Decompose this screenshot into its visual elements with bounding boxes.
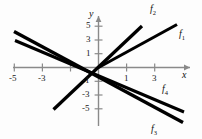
y-tick-label-5: 5 (86, 21, 91, 30)
y-tick-label-neg1: -1 (82, 76, 90, 85)
curve-label-f1: f1 (179, 29, 185, 42)
curve-label-f4: f4 (162, 84, 168, 97)
y-axis-label: y (89, 9, 93, 19)
y-tick-label-neg5: -5 (82, 104, 90, 113)
x-tick-label-neg5: -5 (9, 74, 17, 83)
graph-canvas (0, 0, 202, 139)
curve-label-f2: f2 (150, 4, 156, 17)
y-axis-arrow (96, 16, 102, 22)
curve-label-f3: f3 (151, 124, 157, 137)
y-tick-label-1: 1 (86, 49, 91, 58)
x-tick-label-3: 3 (152, 74, 157, 83)
x-tick-label-neg3: -3 (38, 74, 46, 83)
function-graph-figure: x y -5 -3 1 3 5 3 1 -1 -3 -5 f1 f2 f3 f4 (0, 0, 202, 139)
x-axis-label: x (182, 70, 186, 80)
y-tick-label-neg3: -3 (82, 90, 90, 99)
x-tick-label-1: 1 (124, 74, 129, 83)
y-tick-label-3: 3 (86, 35, 91, 44)
